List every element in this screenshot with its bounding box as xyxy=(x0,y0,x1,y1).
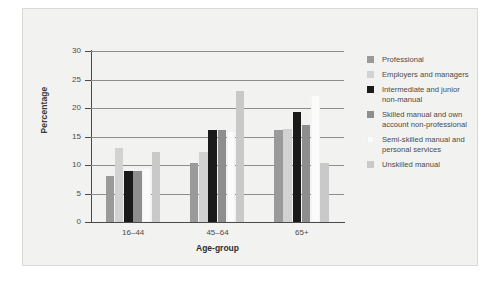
bar xyxy=(274,130,283,222)
bar xyxy=(208,130,217,222)
bar xyxy=(227,131,236,222)
bar xyxy=(142,168,151,222)
bar xyxy=(302,125,311,222)
bar xyxy=(218,130,227,222)
legend-item: Employers and managers xyxy=(367,70,495,80)
legend-swatch xyxy=(367,111,374,118)
chart-figure: 051015202530 Percentage Age-group Profes… xyxy=(0,0,500,282)
legend-label: Skilled manual and own account non-profe… xyxy=(382,110,467,130)
y-axis-tick xyxy=(85,137,91,138)
x-axis-title: Age-group xyxy=(91,243,344,253)
y-axis-tick-label: 10 xyxy=(57,161,81,169)
y-axis-tick-label: 15 xyxy=(57,133,81,141)
legend-label: Semi-skilled manual and personal service… xyxy=(382,135,465,155)
y-axis-title: Percentage xyxy=(39,65,49,155)
gridline xyxy=(91,80,344,81)
legend-label: Professional xyxy=(382,55,424,65)
legend-item: Intermediate and junior non-manual xyxy=(367,85,495,105)
legend-label: Unskilled manual xyxy=(382,160,440,170)
y-axis-tick xyxy=(85,80,91,81)
bar xyxy=(199,152,208,222)
y-axis-tick xyxy=(85,222,91,223)
bar xyxy=(283,129,292,222)
chart-panel: 051015202530 Percentage Age-group Profes… xyxy=(22,8,478,266)
chart-legend: ProfessionalEmployers and managersInterm… xyxy=(367,55,495,175)
y-axis-tick xyxy=(85,165,91,166)
x-axis-group-label: 16–44 xyxy=(103,228,163,237)
y-axis-tick-label: 20 xyxy=(57,104,81,112)
x-axis-line xyxy=(90,222,345,223)
y-axis-tick xyxy=(85,51,91,52)
x-axis-group-label: 65+ xyxy=(272,228,332,237)
gridline xyxy=(91,108,344,109)
bar xyxy=(190,163,199,222)
legend-swatch xyxy=(367,86,374,93)
y-axis-tick-label: 30 xyxy=(57,47,81,55)
bar xyxy=(133,171,142,222)
y-axis-tick-label: 0 xyxy=(57,218,81,226)
legend-swatch xyxy=(367,56,374,63)
plot-area xyxy=(91,51,344,222)
legend-item: Semi-skilled manual and personal service… xyxy=(367,135,495,155)
bar xyxy=(115,148,124,222)
legend-swatch xyxy=(367,161,374,168)
y-axis-tick-label: 5 xyxy=(57,190,81,198)
bar xyxy=(152,152,161,222)
legend-item: Skilled manual and own account non-profe… xyxy=(367,110,495,130)
bar xyxy=(293,112,302,222)
y-axis-tick-labels: 051015202530 xyxy=(55,9,81,267)
legend-swatch xyxy=(367,71,374,78)
y-axis-tick xyxy=(85,108,91,109)
legend-swatch xyxy=(367,136,374,143)
gridline xyxy=(91,51,344,52)
legend-label: Employers and managers xyxy=(382,70,469,80)
bar xyxy=(320,163,329,222)
y-axis-tick xyxy=(85,194,91,195)
legend-item: Professional xyxy=(367,55,495,65)
bar xyxy=(311,95,320,222)
legend-item: Unskilled manual xyxy=(367,160,495,170)
bar xyxy=(124,171,133,222)
legend-label: Intermediate and junior non-manual xyxy=(382,85,460,105)
y-axis-tick-label: 25 xyxy=(57,76,81,84)
bar xyxy=(106,176,115,222)
bar xyxy=(236,91,245,222)
x-axis-group-label: 45–64 xyxy=(188,228,248,237)
